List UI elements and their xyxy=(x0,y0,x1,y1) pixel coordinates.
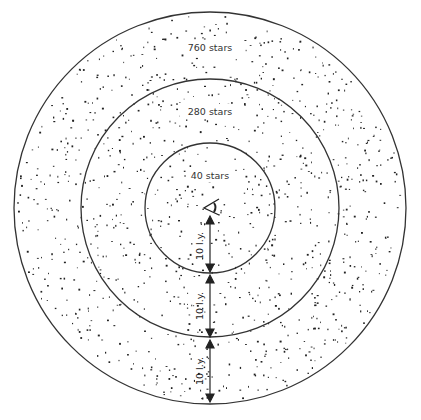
star-dot xyxy=(280,49,281,51)
star-dot xyxy=(213,322,215,323)
star-dot xyxy=(155,194,156,195)
star-dot xyxy=(97,235,99,237)
star-dot xyxy=(345,142,346,143)
star-dot xyxy=(160,226,161,227)
star-dot xyxy=(78,227,79,229)
star-dot xyxy=(118,127,120,128)
star-dot xyxy=(344,327,346,328)
star-dot xyxy=(178,220,180,221)
star-dot xyxy=(202,67,204,68)
star-dot xyxy=(250,45,252,46)
star-dot xyxy=(363,128,365,129)
star-dot xyxy=(204,223,205,225)
star-dot xyxy=(193,340,194,342)
star-dot xyxy=(167,202,168,203)
star-dot xyxy=(238,232,239,234)
star-dot xyxy=(169,370,170,371)
star-dot xyxy=(252,298,253,299)
star-dot xyxy=(376,247,377,249)
star-dot xyxy=(267,248,268,249)
star-dot xyxy=(371,254,373,255)
star-dot xyxy=(165,73,167,75)
star-dot xyxy=(73,120,74,122)
star-dot xyxy=(308,329,309,331)
star-dot xyxy=(229,216,231,217)
star-dot xyxy=(350,206,351,207)
star-dot xyxy=(191,63,193,64)
star-dot xyxy=(345,189,347,190)
star-dot xyxy=(299,101,300,102)
star-dot xyxy=(264,167,265,169)
star-dot xyxy=(394,172,396,173)
star-dot xyxy=(33,199,35,200)
star-dot xyxy=(69,200,70,202)
star-dot xyxy=(113,227,114,229)
star-dot xyxy=(20,175,22,177)
star-dot xyxy=(86,199,87,200)
star-dot xyxy=(291,271,293,272)
star-dot xyxy=(333,283,334,284)
star-dot xyxy=(215,332,217,334)
star-dot xyxy=(51,210,53,211)
star-dot xyxy=(93,218,94,219)
star-dot xyxy=(230,84,231,86)
star-dot xyxy=(322,63,323,64)
star-dot xyxy=(37,168,39,169)
star-dot xyxy=(100,215,102,217)
star-dot xyxy=(131,203,132,205)
star-dot xyxy=(141,54,143,55)
star-dot xyxy=(179,194,181,196)
star-dot xyxy=(98,267,99,268)
star-dot xyxy=(177,88,178,90)
star-dot xyxy=(184,99,185,100)
star-dot xyxy=(330,191,331,193)
star-dot xyxy=(164,394,166,395)
star-dot xyxy=(199,329,200,331)
star-dot xyxy=(338,89,340,91)
star-dot xyxy=(173,141,174,143)
star-dot xyxy=(268,249,269,251)
star-dot xyxy=(367,142,368,144)
star-dot xyxy=(266,262,267,263)
star-dot xyxy=(326,104,327,105)
star-dot xyxy=(194,276,196,277)
star-dot xyxy=(224,86,226,87)
star-dot xyxy=(84,101,86,103)
star-dot xyxy=(28,220,29,222)
star-dot xyxy=(242,317,244,319)
star-dot xyxy=(86,120,88,121)
star-dot xyxy=(265,63,266,65)
star-dot xyxy=(174,368,176,369)
star-dot xyxy=(123,115,124,116)
star-dot xyxy=(137,171,138,172)
star-dot xyxy=(372,290,374,291)
star-dot xyxy=(226,23,228,25)
star-dot xyxy=(32,274,34,275)
star-dot xyxy=(373,136,375,137)
star-dot xyxy=(335,319,337,320)
star-dot xyxy=(135,262,136,263)
star-dot xyxy=(201,33,203,34)
star-dot xyxy=(212,94,214,96)
star-dot xyxy=(273,166,275,167)
star-dot xyxy=(127,228,129,229)
star-dot xyxy=(287,181,288,183)
star-dot xyxy=(288,335,289,337)
star-dot xyxy=(133,363,134,365)
star-dot xyxy=(60,111,61,112)
star-dot xyxy=(227,140,229,141)
star-dot xyxy=(225,303,227,305)
star-dot xyxy=(347,235,348,236)
star-dot xyxy=(79,309,81,311)
star-dot xyxy=(65,154,66,156)
star-dot xyxy=(38,147,39,148)
star-dot xyxy=(312,257,314,258)
star-dot xyxy=(331,102,333,104)
star-dot xyxy=(182,383,183,384)
star-dot xyxy=(113,117,115,119)
star-dot xyxy=(142,192,144,193)
star-dot xyxy=(397,207,399,208)
star-dot xyxy=(351,119,352,121)
star-dot xyxy=(245,344,247,345)
star-dot xyxy=(95,235,96,237)
